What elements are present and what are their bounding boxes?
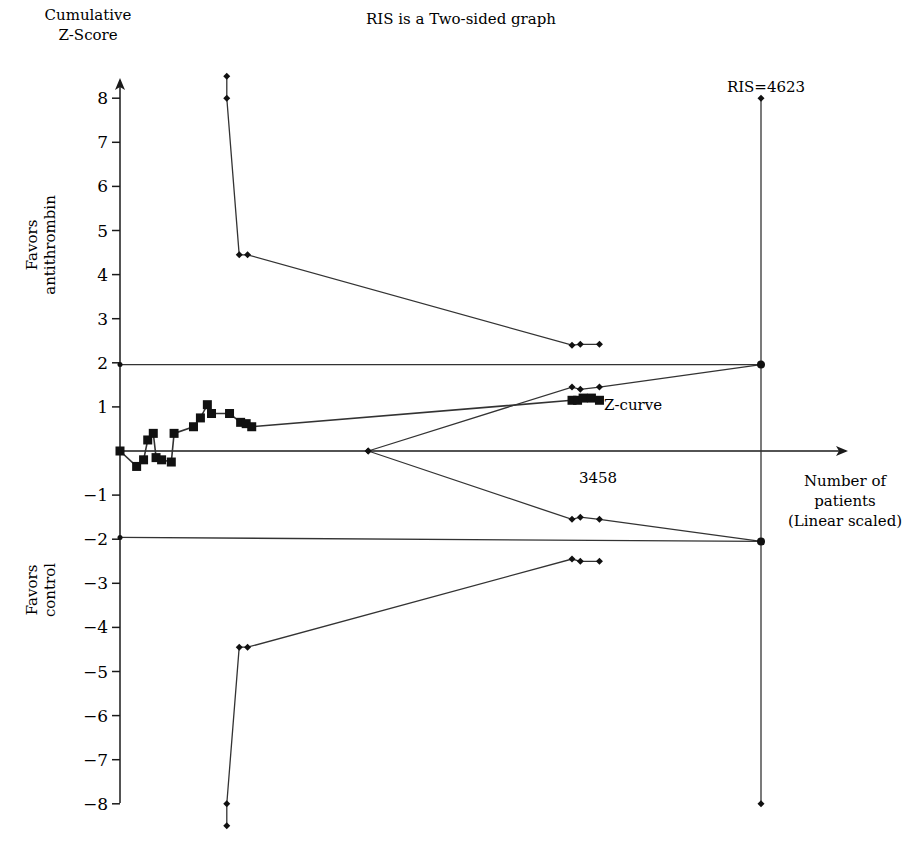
diamond-marker-icon: [577, 386, 584, 393]
y-tick-label: −2: [83, 529, 108, 549]
diamond-marker-icon: [223, 800, 230, 807]
svg-text:Favors: Favors: [23, 220, 41, 271]
y-tick-label: −6: [83, 706, 108, 726]
square-marker-icon: [247, 422, 256, 431]
y-axis-label-line1: Cumulative: [45, 6, 132, 24]
y-tick-label: 1: [97, 397, 108, 417]
series-upper-futility-boundary: [365, 361, 765, 454]
diamond-marker-icon: [577, 341, 584, 348]
square-marker-icon: [595, 396, 604, 405]
square-marker-icon: [149, 429, 158, 438]
boundary-intersection-dot: [118, 362, 123, 367]
diamond-marker-icon: [236, 251, 243, 258]
square-marker-icon: [579, 394, 588, 403]
diamond-marker-icon: [758, 800, 765, 807]
square-marker-icon: [203, 400, 212, 409]
diamond-marker-icon: [236, 644, 243, 651]
y-tick-label: −1: [83, 485, 108, 505]
series-z-curve: [116, 394, 604, 471]
y-tick-label: 6: [97, 176, 108, 196]
boundary-intersection-dot: [757, 361, 765, 369]
diamond-marker-icon: [365, 448, 372, 455]
diamond-marker-icon: [223, 95, 230, 102]
square-marker-icon: [189, 422, 198, 431]
diamond-marker-icon: [569, 556, 576, 563]
square-marker-icon: [167, 458, 176, 467]
square-marker-icon: [170, 429, 179, 438]
series-upper-alpha-spending-boundary: [223, 73, 603, 349]
x-axis-label-line3: (Linear scaled): [788, 512, 902, 530]
chart-title: RIS is a Two-sided graph: [366, 10, 556, 28]
favors-control-label: Favors control: [23, 563, 59, 617]
ris-label: RIS=4623: [727, 78, 805, 96]
y-tick-label: −3: [83, 573, 108, 593]
square-marker-icon: [116, 447, 125, 456]
diamond-marker-icon: [223, 822, 230, 829]
diamond-marker-icon: [569, 516, 576, 523]
series-lower-futility-boundary: [365, 448, 765, 545]
diamond-marker-icon: [596, 558, 603, 565]
diamond-marker-icon: [577, 514, 584, 521]
diamond-marker-icon: [596, 341, 603, 348]
svg-text:Favors: Favors: [23, 565, 41, 616]
square-marker-icon: [139, 455, 148, 464]
y-tick-label: 8: [97, 88, 108, 108]
diamond-marker-icon: [244, 251, 251, 258]
square-marker-icon: [587, 394, 596, 403]
y-tick-label: 5: [97, 221, 108, 241]
y-tick-label: −8: [83, 794, 108, 814]
y-tick-label: 2: [97, 353, 108, 373]
series-lower-alpha-spending-boundary: [223, 556, 603, 830]
y-tick-label: −7: [83, 750, 108, 770]
y-tick-label: 3: [97, 309, 108, 329]
series-conventional-boundary-1-96: [120, 537, 761, 541]
diamond-marker-icon: [577, 558, 584, 565]
svg-text:antithrombin: antithrombin: [41, 195, 59, 295]
favors-antithrombin-label: Favors antithrombin: [23, 195, 59, 295]
y-tick-label: 4: [97, 265, 108, 285]
diamond-marker-icon: [596, 516, 603, 523]
diamond-marker-icon: [596, 384, 603, 391]
y-tick-label: −5: [83, 662, 108, 682]
y-tick-label: 7: [97, 132, 108, 152]
svg-text:control: control: [41, 563, 59, 617]
diamond-marker-icon: [569, 384, 576, 391]
accrued-patients-label: 3458: [579, 469, 617, 487]
square-marker-icon: [207, 409, 216, 418]
y-tick-label: −4: [83, 617, 108, 637]
boundary-intersection-dot: [757, 537, 765, 545]
x-axis-label-line1: Number of: [804, 472, 887, 490]
trial-sequential-analysis-chart: RIS is a Two-sided graph Cumulative Z-Sc…: [0, 0, 921, 853]
diamond-marker-icon: [244, 644, 251, 651]
diamond-marker-icon: [223, 73, 230, 80]
square-marker-icon: [196, 413, 205, 422]
square-marker-icon: [225, 409, 234, 418]
x-axis-label-line2: patients: [814, 492, 876, 510]
boundary-intersection-dot: [118, 535, 123, 540]
diamond-marker-icon: [569, 342, 576, 349]
y-axis-label-line2: Z-Score: [58, 26, 117, 44]
square-marker-icon: [157, 455, 166, 464]
y-ticks: 87654321−1−2−3−4−5−6−7−8: [83, 88, 120, 814]
zcurve-label: Z-curve: [604, 396, 662, 414]
